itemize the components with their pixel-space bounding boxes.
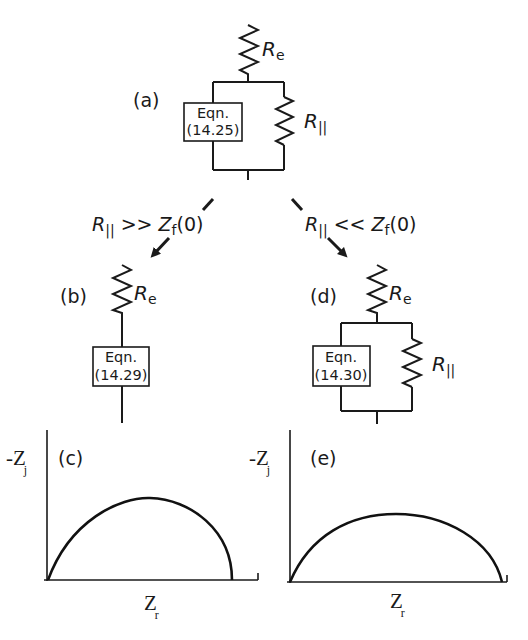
panel-d-label: (d) — [310, 285, 337, 307]
y-axis-label-c: -Zj — [6, 446, 27, 477]
right-condition-label: R|| << Zf(0) — [305, 213, 416, 239]
panel-c-label: (c) — [58, 447, 83, 469]
y-axis-label-e: -Zj — [249, 446, 270, 477]
branch-left: R|| >> Zf(0) — [92, 199, 213, 254]
resistor-re-d — [368, 265, 386, 323]
panel-c-plot: -Zj (c) Zr — [6, 430, 258, 622]
panel-a-circuit: (a) Re Eqn. (14.25) R|| — [133, 25, 327, 180]
left-branch-arrow — [154, 238, 169, 254]
element-box-d-line1: Eqn. — [325, 349, 357, 365]
right-branch-arrow — [328, 238, 344, 254]
element-box-b-line1: Eqn. — [105, 349, 137, 365]
resistor-re-a — [240, 25, 258, 82]
left-condition-label: R|| >> Zf(0) — [92, 213, 203, 239]
element-box-b-line2: (14.29) — [95, 367, 148, 383]
right-branch-dash — [292, 199, 302, 210]
panel-e-label: (e) — [310, 447, 337, 469]
panel-e-plot: -Zj (e) Zr — [249, 430, 507, 620]
element-box-a-line1: Eqn. — [197, 105, 229, 121]
x-axis-label-e: Zr — [390, 589, 405, 620]
resistor-rpar-a-label: R|| — [304, 109, 327, 136]
resistor-rpar-a — [276, 97, 293, 145]
resistor-re-b — [113, 265, 131, 347]
resistor-re-a-label: Re — [262, 37, 285, 63]
impedance-circuit-diagram: (a) Re Eqn. (14.25) R|| R|| >> Zf(0) R||… — [0, 0, 528, 640]
panel-b-circuit: (b) Re Eqn. (14.29) — [60, 265, 157, 423]
left-branch-dash — [203, 199, 213, 210]
impedance-arc-e — [290, 514, 502, 582]
resistor-rpar-d — [403, 339, 421, 387]
x-axis-label-c: Zr — [144, 591, 159, 622]
element-box-a-line2: (14.25) — [187, 122, 240, 138]
branch-right: R|| << Zf(0) — [292, 199, 416, 254]
resistor-re-b-label: Re — [134, 281, 157, 307]
element-box-d-line2: (14.30) — [315, 367, 368, 383]
panel-d-circuit: (d) Re Eqn. (14.30) R|| — [310, 265, 455, 424]
impedance-arc-c — [48, 498, 232, 580]
resistor-re-d-label: Re — [389, 281, 412, 307]
panel-a-label: (a) — [133, 89, 159, 111]
resistor-rpar-d-label: R|| — [432, 352, 455, 379]
panel-b-label: (b) — [60, 285, 87, 307]
